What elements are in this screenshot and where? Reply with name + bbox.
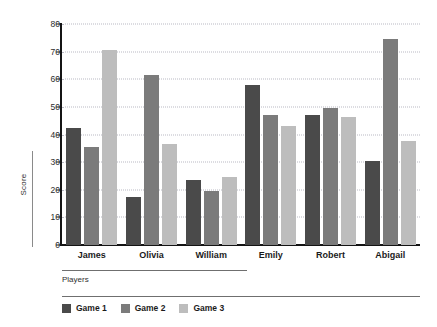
bar-chart: Score 01020304050607080 JamesOliviaWilli…: [0, 0, 437, 327]
bar[interactable]: [365, 161, 380, 245]
legend-item[interactable]: Game 1: [62, 303, 107, 313]
bar[interactable]: [323, 108, 338, 245]
bar[interactable]: [305, 115, 320, 245]
x-axis-title-rule: [62, 270, 247, 271]
bar[interactable]: [126, 197, 141, 245]
x-axis-category-labels: JamesOliviaWilliamEmilyRobertAbigail: [62, 250, 420, 260]
bar[interactable]: [84, 147, 99, 245]
legend-swatch-icon: [62, 304, 71, 313]
bar-group: [301, 24, 361, 245]
legend-item[interactable]: Game 2: [121, 303, 166, 313]
bar[interactable]: [66, 128, 81, 245]
bar-group: [181, 24, 241, 245]
y-axis-title-rule: [32, 151, 33, 247]
bar[interactable]: [341, 117, 356, 245]
bar[interactable]: [186, 180, 201, 245]
bar[interactable]: [204, 191, 219, 245]
bar[interactable]: [144, 75, 159, 245]
x-axis-title: Players: [62, 275, 89, 284]
legend-label: Game 1: [76, 303, 107, 313]
bar[interactable]: [162, 144, 177, 245]
x-category-label: James: [62, 250, 122, 260]
bar[interactable]: [245, 85, 260, 245]
bar[interactable]: [383, 39, 398, 245]
x-category-label: Olivia: [122, 250, 182, 260]
bar[interactable]: [281, 126, 296, 245]
bar-group: [62, 24, 122, 245]
legend-swatch-icon: [179, 304, 188, 313]
bar-group: [360, 24, 420, 245]
bar-group: [122, 24, 182, 245]
legend-swatch-icon: [121, 304, 130, 313]
bar-groups: [62, 24, 420, 245]
legend: Game 1Game 2Game 3: [62, 303, 224, 313]
x-category-label: William: [181, 250, 241, 260]
x-category-label: Robert: [301, 250, 361, 260]
legend-item[interactable]: Game 3: [179, 303, 224, 313]
legend-label: Game 3: [193, 303, 224, 313]
legend-label: Game 2: [135, 303, 166, 313]
x-category-label: Emily: [241, 250, 301, 260]
y-axis-title: Score: [19, 155, 28, 215]
plot-area: [62, 24, 420, 245]
legend-rule: [62, 296, 420, 297]
bar[interactable]: [222, 177, 237, 245]
bar[interactable]: [102, 50, 117, 245]
bar[interactable]: [401, 141, 416, 245]
bar-group: [241, 24, 301, 245]
bar[interactable]: [263, 115, 278, 245]
x-category-label: Abigail: [360, 250, 420, 260]
